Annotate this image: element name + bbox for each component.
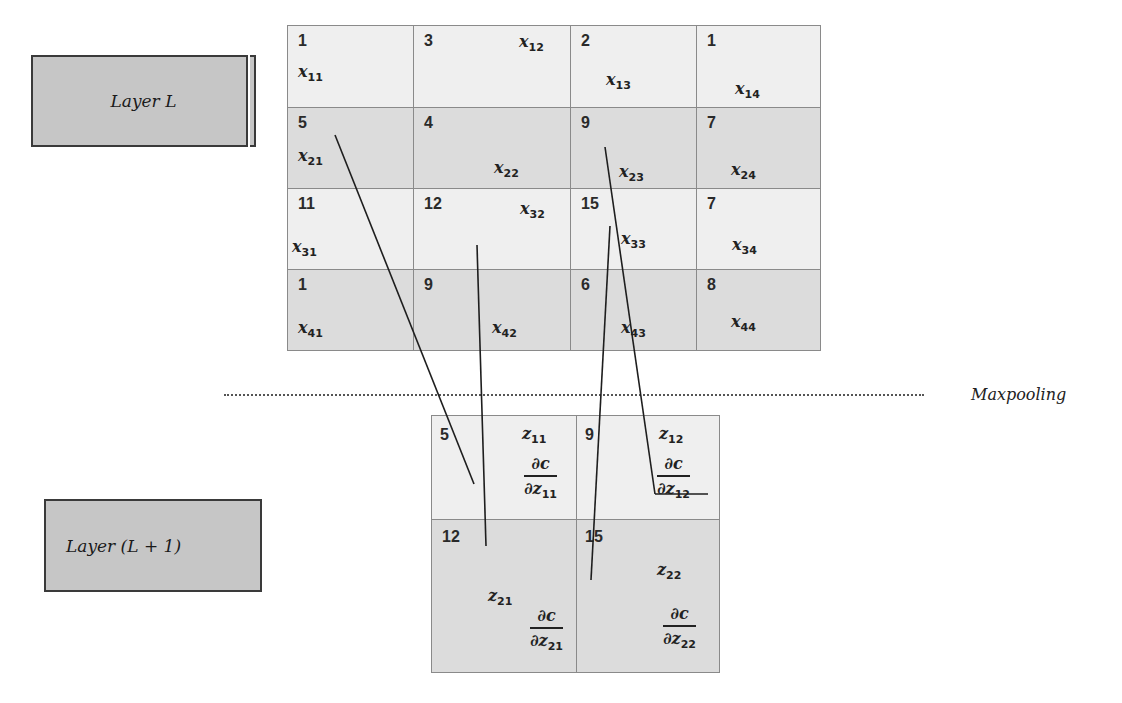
cell-value: 1 bbox=[298, 32, 307, 50]
input-feature-map: 1 x11 3 x12 2 x13 1 x14 5 x21 4 x22 9 x2… bbox=[287, 25, 821, 351]
cell-variable: z11 bbox=[522, 424, 546, 446]
cell-variable: x43 bbox=[621, 318, 646, 340]
cell-variable: z12 bbox=[659, 424, 683, 446]
input-cell-x22: 4 x22 bbox=[414, 108, 571, 189]
cell-variable: x31 bbox=[292, 237, 317, 259]
output-cell-z22: 15 z22 ∂c ∂z22 bbox=[577, 520, 719, 672]
cell-variable: x12 bbox=[519, 32, 544, 54]
input-cell-x23: 9 x23 bbox=[571, 108, 697, 189]
input-cell-x41: 1 x41 bbox=[288, 270, 414, 350]
cell-value: 6 bbox=[581, 276, 590, 294]
input-cell-x21: 5 x21 bbox=[288, 108, 414, 189]
input-cell-x12: 3 x12 bbox=[414, 26, 571, 108]
maxpooling-divider bbox=[224, 394, 924, 396]
cell-variable: x24 bbox=[731, 160, 756, 182]
cell-value: 9 bbox=[585, 426, 594, 444]
gradient-dz11: ∂c ∂z11 bbox=[524, 454, 557, 501]
layer-l-plus-1-label: Layer (L + 1) bbox=[66, 536, 181, 556]
cell-value: 2 bbox=[581, 32, 590, 50]
input-cell-x42: 9 x42 bbox=[414, 270, 571, 350]
cell-value: 1 bbox=[707, 32, 716, 50]
gradient-dz12: ∂c ∂z12 bbox=[657, 454, 690, 501]
input-cell-x31: 11 x31 bbox=[288, 189, 414, 270]
layer-l-label: Layer L bbox=[111, 91, 177, 111]
layer-l-plus-1-box: Layer (L + 1) bbox=[44, 499, 262, 592]
gradient-dz21: ∂c ∂z21 bbox=[530, 606, 563, 653]
input-cell-x32: 12 x32 bbox=[414, 189, 571, 270]
layer-l-box: Layer L bbox=[31, 55, 256, 147]
input-cell-x13: 2 x13 bbox=[571, 26, 697, 108]
output-cell-z11: 5 z11 ∂c ∂z11 bbox=[432, 416, 577, 520]
output-cell-z12: 9 z12 ∂c ∂z12 bbox=[577, 416, 719, 520]
input-cell-x24: 7 x24 bbox=[697, 108, 820, 189]
cell-variable: x13 bbox=[606, 70, 631, 92]
cell-value: 4 bbox=[424, 114, 433, 132]
cell-variable: x14 bbox=[735, 79, 760, 101]
cell-value: 1 bbox=[298, 276, 307, 294]
cell-variable: x33 bbox=[621, 229, 646, 251]
gradient-dz22: ∂c ∂z22 bbox=[663, 604, 696, 651]
cell-value: 12 bbox=[442, 528, 460, 546]
input-cell-x14: 1 x14 bbox=[697, 26, 820, 108]
cell-variable: z22 bbox=[657, 560, 681, 582]
cell-variable: z21 bbox=[488, 586, 512, 608]
output-feature-map: 5 z11 ∂c ∂z11 9 z12 ∂c ∂z12 12 z21 ∂c ∂z… bbox=[431, 415, 720, 673]
cell-variable: x41 bbox=[298, 318, 323, 340]
output-cell-z21: 12 z21 ∂c ∂z21 bbox=[432, 520, 577, 672]
cell-variable: x11 bbox=[298, 62, 323, 84]
cell-value: 9 bbox=[581, 114, 590, 132]
cell-variable: x22 bbox=[494, 158, 519, 180]
cell-variable: x21 bbox=[298, 146, 323, 168]
cell-value: 5 bbox=[298, 114, 307, 132]
cell-value: 12 bbox=[424, 195, 442, 213]
cell-variable: x32 bbox=[520, 199, 545, 221]
cell-variable: x42 bbox=[492, 318, 517, 340]
cell-value: 8 bbox=[707, 276, 716, 294]
cell-value: 15 bbox=[585, 528, 603, 546]
input-cell-x33: 15 x33 bbox=[571, 189, 697, 270]
cell-value: 3 bbox=[424, 32, 433, 50]
cell-value: 15 bbox=[581, 195, 599, 213]
input-cell-x34: 7 x34 bbox=[697, 189, 820, 270]
cell-value: 7 bbox=[707, 195, 716, 213]
input-cell-x43: 6 x43 bbox=[571, 270, 697, 350]
cell-value: 5 bbox=[440, 426, 449, 444]
cell-value: 7 bbox=[707, 114, 716, 132]
input-cell-x11: 1 x11 bbox=[288, 26, 414, 108]
maxpooling-label: Maxpooling bbox=[971, 385, 1066, 404]
cell-variable: x34 bbox=[732, 235, 757, 257]
input-cell-x44: 8 x44 bbox=[697, 270, 820, 350]
cell-variable: x23 bbox=[619, 162, 644, 184]
cell-value: 11 bbox=[298, 195, 315, 213]
cell-variable: x44 bbox=[731, 312, 756, 334]
cell-value: 9 bbox=[424, 276, 433, 294]
